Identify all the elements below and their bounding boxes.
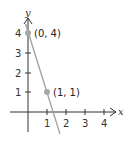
coordinate-plane: x y 1 2 3 4 1 2 3 4 (0, 4) (1, 1) — [0, 0, 129, 144]
y-tick-label: 2 — [15, 68, 21, 79]
y-tick-label: 3 — [15, 48, 21, 59]
data-line — [26, 24, 60, 134]
x-tick-label: 1 — [44, 118, 50, 129]
data-point — [44, 89, 50, 95]
data-point — [25, 30, 31, 36]
x-tick-label: 4 — [101, 118, 107, 129]
x-tick-label: 3 — [82, 118, 88, 129]
point-label: (0, 4) — [34, 28, 61, 39]
y-tick-label: 4 — [15, 28, 21, 39]
point-label: (1, 1) — [53, 87, 80, 98]
y-tick-label: 1 — [15, 87, 21, 98]
y-axis-label: y — [24, 7, 31, 18]
x-tick-label: 2 — [63, 118, 69, 129]
x-axis-label: x — [118, 106, 124, 117]
